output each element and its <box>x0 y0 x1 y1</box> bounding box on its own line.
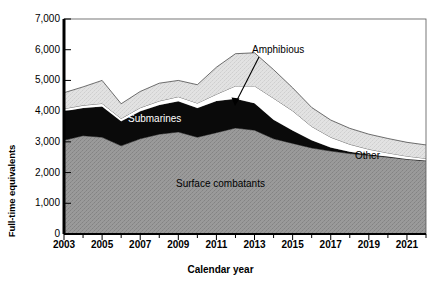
x-tick-label: 2019 <box>349 239 389 250</box>
x-tick-label: 2021 <box>387 239 427 250</box>
x-tick-label: 2005 <box>82 239 122 250</box>
x-tick-label: 2007 <box>120 239 160 250</box>
annotation-surface-combatants: Surface combatants <box>176 178 265 189</box>
x-tick-label: 2009 <box>158 239 198 250</box>
annotation-amphibious: Amphibious <box>252 44 304 55</box>
x-tick-label: 2003 <box>44 239 84 250</box>
x-tick-label: 2013 <box>235 239 275 250</box>
x-axis-label: Calendar year <box>0 264 441 275</box>
chart-figure: Full-time equivalents 01,0002,0003,0004,… <box>0 0 441 285</box>
x-tick-label: 2015 <box>273 239 313 250</box>
annotation-submarines: Submarines <box>128 113 181 124</box>
x-tick-label: 2017 <box>311 239 351 250</box>
annotation-other: Other <box>355 150 380 161</box>
x-tick-label: 2011 <box>196 239 236 250</box>
